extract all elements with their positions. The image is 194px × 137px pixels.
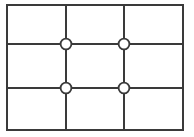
node-top-right	[119, 39, 130, 50]
diagram-background	[0, 0, 194, 137]
grid-diagram	[0, 0, 194, 137]
node-bottom-left	[61, 83, 72, 94]
diagram-canvas	[0, 0, 194, 137]
node-bottom-right	[119, 83, 130, 94]
node-top-left	[61, 39, 72, 50]
